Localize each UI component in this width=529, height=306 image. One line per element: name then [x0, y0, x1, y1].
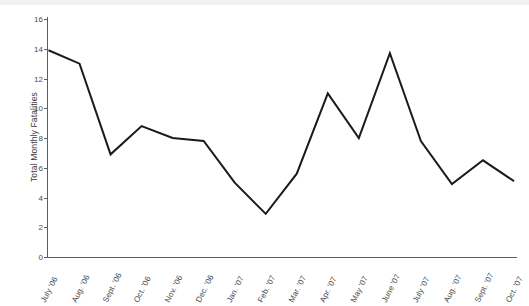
y-axis-tick-mark	[44, 19, 48, 20]
y-axis-tick-mark	[44, 227, 48, 228]
chart-page: Total Monthly Fatalities 0246810121416 J…	[0, 0, 529, 306]
y-axis-tick-mark	[44, 138, 48, 139]
y-axis-tick-mark	[44, 168, 48, 169]
series-polyline	[49, 50, 515, 214]
y-axis-tick-mark	[44, 108, 48, 109]
y-axis-tick-mark	[44, 49, 48, 50]
y-axis-tick-mark	[44, 198, 48, 199]
series-line-chart	[0, 0, 529, 306]
y-axis-tick-mark	[44, 79, 48, 80]
y-axis-tick-mark	[44, 257, 48, 258]
